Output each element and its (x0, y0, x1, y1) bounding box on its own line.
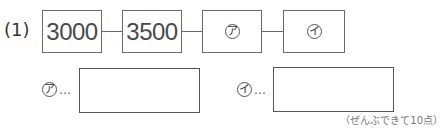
leader-dots: … (254, 83, 267, 97)
connector-line (102, 31, 123, 32)
leader-dots: … (59, 83, 72, 97)
answer-label-i: イ … (237, 82, 267, 97)
circled-i-marker: イ (307, 24, 322, 39)
answer-box-a[interactable] (79, 68, 200, 113)
circled-a-marker: ア (42, 82, 57, 97)
circled-a-marker: ア (225, 24, 240, 39)
chain-value: 3500 (126, 18, 177, 46)
chain-value: 3000 (46, 18, 97, 46)
score-note: （ぜんぶできて10点） (340, 112, 443, 127)
circled-i-marker: イ (237, 82, 252, 97)
chain-box-2: 3500 (122, 10, 182, 53)
chain-box-1: 3000 (42, 10, 102, 53)
chain-box-blank-i: イ (283, 10, 345, 53)
connector-line (262, 31, 284, 32)
chain-box-blank-a: ア (202, 10, 262, 53)
connector-line (182, 31, 203, 32)
problem-number: (1) (4, 19, 30, 40)
answer-label-a: ア … (42, 82, 72, 97)
answer-box-i[interactable] (273, 67, 394, 112)
